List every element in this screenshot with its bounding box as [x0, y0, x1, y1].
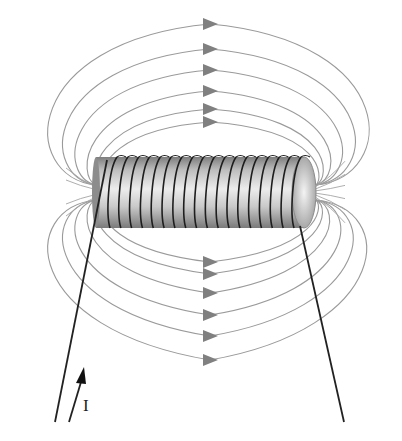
- current-label: I: [83, 396, 89, 416]
- solenoid-field-diagram: [0, 0, 402, 441]
- field-direction-arrow-icon: [203, 103, 218, 115]
- field-direction-arrow-icon: [203, 116, 218, 128]
- field-direction-arrow-icon: [203, 85, 218, 97]
- field-direction-arrow-icon: [203, 309, 218, 321]
- field-direction-arrow-icon: [203, 330, 218, 342]
- field-direction-arrow-icon: [203, 64, 218, 76]
- field-direction-arrow-icon: [203, 354, 218, 366]
- field-direction-arrow-icon: [203, 256, 218, 268]
- field-direction-arrow-icon: [203, 18, 218, 30]
- field-direction-arrow-icon: [203, 43, 218, 55]
- right-lead-wire: [300, 226, 344, 422]
- field-direction-arrow-icon: [203, 287, 218, 299]
- field-direction-arrow-icon: [203, 268, 218, 280]
